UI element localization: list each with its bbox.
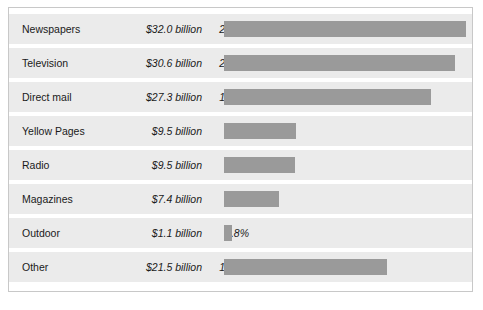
- row-label: Other: [22, 252, 48, 282]
- table-row: Outdoor$1.1 billion0.8%: [9, 218, 472, 248]
- bar-track: [224, 14, 466, 44]
- row-value: $32.0 billion: [104, 14, 202, 44]
- row-value: $21.5 billion: [104, 252, 202, 282]
- table-row: Television$30.6 billion22.1%: [9, 48, 472, 78]
- row-value: $30.6 billion: [104, 48, 202, 78]
- row-label: Yellow Pages: [22, 116, 85, 146]
- row-value: $9.5 billion: [104, 116, 202, 146]
- bar: [224, 157, 295, 173]
- bar-track: [224, 218, 466, 248]
- table-row: Magazines$7.4 billion5.3%: [9, 184, 472, 214]
- bar-track: [224, 184, 466, 214]
- bar: [224, 123, 296, 139]
- table-row: Other$21.5 billion15.6%: [9, 252, 472, 282]
- table-row: Yellow Pages$9.5 billion6.9%: [9, 116, 472, 146]
- bar-track: [224, 48, 466, 78]
- bar: [224, 21, 466, 37]
- table-row: Direct mail$27.3 billion19.8%: [9, 82, 472, 112]
- bar: [224, 89, 431, 105]
- chart-frame: Newspapers$32.0 billion23.2%Television$3…: [8, 7, 473, 292]
- bar: [224, 259, 387, 275]
- row-label: Magazines: [22, 184, 73, 214]
- row-value: $27.3 billion: [104, 82, 202, 112]
- bar: [224, 225, 232, 241]
- bar-track: [224, 252, 466, 282]
- row-label: Television: [22, 48, 68, 78]
- row-value: $7.4 billion: [104, 184, 202, 214]
- bar: [224, 191, 279, 207]
- row-label: Radio: [22, 150, 49, 180]
- table-row: Newspapers$32.0 billion23.2%: [9, 14, 472, 44]
- bar: [224, 55, 455, 71]
- row-label: Direct mail: [22, 82, 72, 112]
- row-value: $1.1 billion: [104, 218, 202, 248]
- row-label: Outdoor: [22, 218, 60, 248]
- table-row: Radio$9.5 billion6.8%: [9, 150, 472, 180]
- bar-track: [224, 116, 466, 146]
- bar-track: [224, 82, 466, 112]
- bar-track: [224, 150, 466, 180]
- row-label: Newspapers: [22, 14, 80, 44]
- chart-rows: Newspapers$32.0 billion23.2%Television$3…: [9, 14, 472, 286]
- row-value: $9.5 billion: [104, 150, 202, 180]
